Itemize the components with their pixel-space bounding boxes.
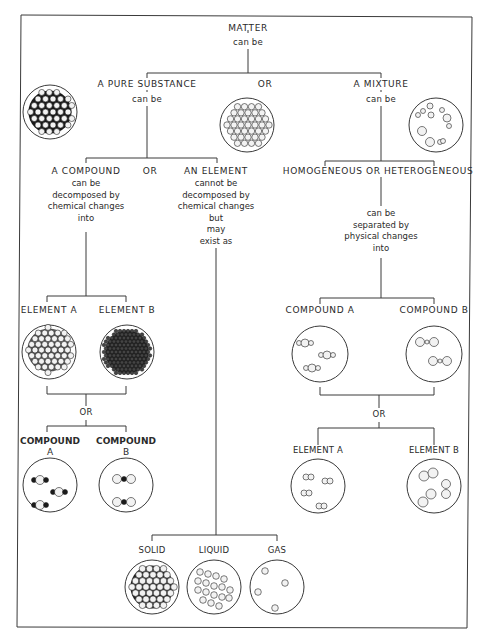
atom	[421, 109, 426, 114]
atom	[68, 341, 74, 347]
atom	[35, 353, 41, 359]
atom	[108, 340, 112, 344]
atom	[316, 366, 321, 371]
atom	[255, 589, 262, 596]
atom	[144, 347, 148, 351]
atom	[120, 333, 124, 337]
atom	[35, 364, 41, 370]
atom	[157, 572, 164, 579]
atom	[128, 368, 132, 372]
atom	[126, 357, 130, 361]
atom	[136, 333, 140, 337]
atom	[46, 102, 52, 108]
atom	[211, 592, 218, 599]
atom	[110, 364, 114, 368]
atom	[227, 128, 233, 134]
atom	[234, 116, 240, 122]
atom	[54, 102, 60, 108]
right-or-label: OR	[373, 409, 386, 420]
atom	[132, 368, 136, 372]
atom	[55, 353, 61, 359]
atom	[430, 338, 439, 347]
atom	[167, 578, 174, 585]
atom	[238, 110, 244, 116]
atom	[58, 358, 64, 364]
atom	[426, 489, 436, 499]
atom	[241, 128, 247, 134]
atom	[110, 336, 114, 340]
atom	[157, 596, 164, 603]
atom	[142, 350, 146, 354]
atom	[124, 354, 128, 358]
atom	[122, 500, 127, 505]
atom	[259, 122, 265, 128]
atom	[29, 353, 35, 359]
atom	[425, 340, 429, 344]
atom	[255, 116, 261, 122]
atom	[132, 347, 136, 351]
atom	[146, 343, 150, 347]
atom	[118, 371, 122, 375]
atom	[58, 96, 64, 102]
atom	[44, 503, 49, 508]
atom	[331, 353, 336, 358]
atom	[127, 475, 136, 484]
atom	[146, 565, 153, 572]
atom	[157, 584, 164, 591]
atom	[122, 357, 126, 361]
atom	[32, 336, 38, 342]
atom	[146, 602, 153, 609]
atom	[427, 103, 433, 109]
atom	[126, 336, 130, 340]
atom	[442, 490, 451, 499]
atom	[39, 102, 45, 108]
atom	[106, 350, 110, 354]
atom	[32, 358, 38, 364]
atom	[138, 350, 142, 354]
atom	[39, 89, 45, 95]
atom	[29, 341, 35, 347]
atom	[112, 340, 116, 344]
atom	[48, 330, 54, 336]
atom	[31, 102, 37, 108]
atom	[419, 471, 429, 481]
atom	[116, 361, 120, 365]
atom	[35, 330, 41, 336]
atom	[120, 340, 124, 344]
atom	[120, 361, 124, 365]
atom	[255, 104, 261, 110]
atom	[54, 89, 60, 95]
atom	[54, 116, 60, 122]
atom	[195, 587, 202, 594]
atom	[148, 347, 152, 351]
atom	[118, 336, 122, 340]
atom	[39, 358, 45, 364]
atom	[48, 353, 54, 359]
atom	[140, 368, 144, 372]
atom	[148, 354, 152, 358]
atom	[55, 330, 61, 336]
atom	[110, 343, 114, 347]
atom	[114, 343, 118, 347]
atom	[262, 568, 269, 575]
atom	[203, 589, 210, 596]
atom	[134, 336, 138, 340]
atom	[114, 371, 118, 375]
atom	[106, 343, 110, 347]
atom	[153, 578, 160, 585]
atom	[102, 357, 106, 361]
atom	[128, 340, 132, 344]
atom	[108, 347, 112, 351]
pure-substance-connector: can be	[132, 94, 162, 105]
atom	[120, 347, 124, 351]
atom	[122, 371, 126, 375]
atom	[308, 364, 316, 372]
atom	[110, 350, 114, 354]
atom	[112, 354, 116, 358]
atom	[128, 361, 132, 365]
atom	[138, 357, 142, 361]
atom	[134, 329, 138, 333]
atom	[55, 488, 64, 497]
atom	[122, 343, 126, 347]
element-a-label: ELEMENT A	[21, 305, 78, 316]
